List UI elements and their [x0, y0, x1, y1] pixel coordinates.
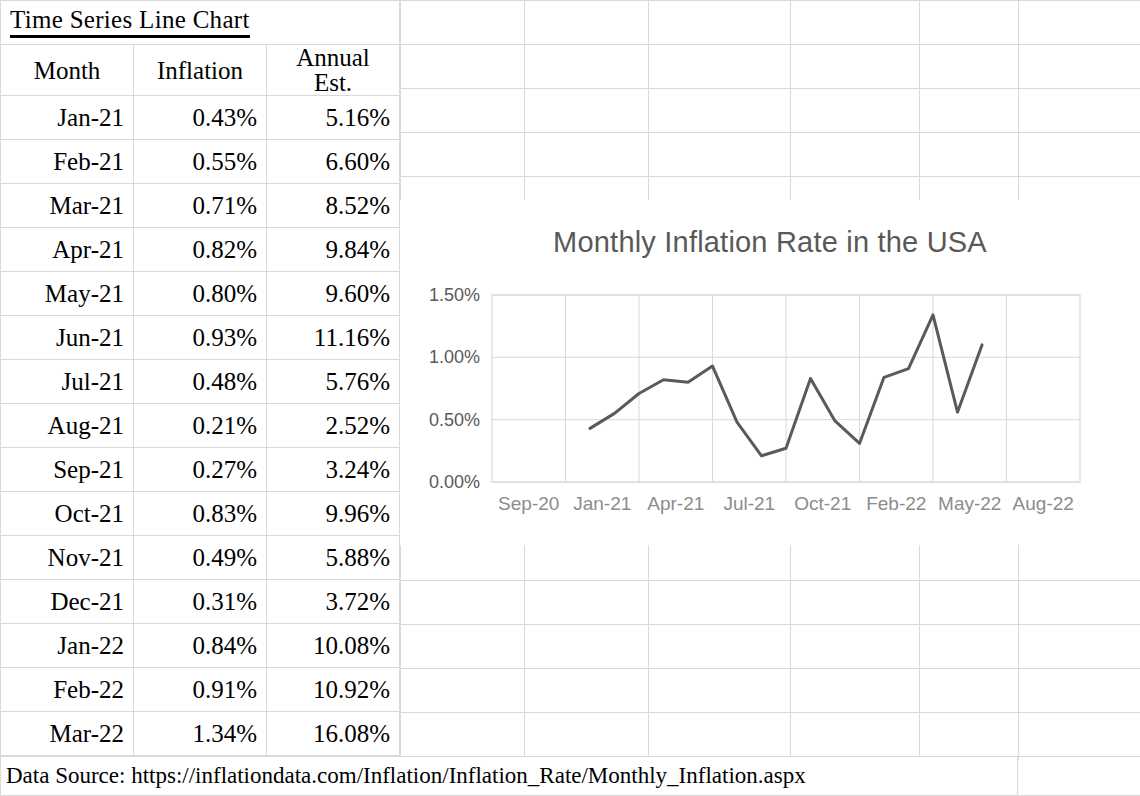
data-source-row[interactable]: Data Source: https://inflationdata.com/I…: [0, 756, 1018, 796]
sheet-title-cell: Time Series Line Chart: [1, 1, 400, 45]
cell-month[interactable]: Apr-21: [1, 228, 134, 272]
cell-inflation[interactable]: 0.91%: [134, 668, 267, 712]
x-axis-tick-labels: Sep-20Jan-21Apr-21Jul-21Oct-21Feb-22May-…: [498, 493, 1074, 514]
cell-inflation[interactable]: 0.71%: [134, 184, 267, 228]
data-source-text: Data Source: https://inflationdata.com/I…: [1, 763, 806, 789]
y-axis-tick-label: 1.00%: [429, 347, 480, 367]
cell-month[interactable]: Jul-21: [1, 360, 134, 404]
cell-annual[interactable]: 9.60%: [267, 272, 400, 316]
inflation-data-table: Time Series Line Chart Month Inflation A…: [0, 0, 400, 796]
cell-annual[interactable]: 10.92%: [267, 668, 400, 712]
cell-month[interactable]: Sep-21: [1, 448, 134, 492]
table-body: Time Series Line Chart Month Inflation A…: [1, 1, 400, 796]
cell-annual[interactable]: 11.16%: [267, 316, 400, 360]
table-row[interactable]: Oct-21 0.83% 9.96%: [1, 492, 400, 536]
cell-month[interactable]: Jan-21: [1, 96, 134, 140]
column-header-inflation[interactable]: Inflation: [134, 45, 267, 96]
table-row[interactable]: Aug-21 0.21% 2.52%: [1, 404, 400, 448]
x-axis-tick-label: Apr-21: [647, 493, 704, 514]
cell-inflation[interactable]: 0.48%: [134, 360, 267, 404]
cell-month[interactable]: Jun-21: [1, 316, 134, 360]
cell-inflation[interactable]: 1.34%: [134, 712, 267, 756]
cell-annual[interactable]: 3.72%: [267, 580, 400, 624]
spreadsheet-page: Time Series Line Chart Month Inflation A…: [0, 0, 1140, 796]
cell-annual[interactable]: 5.16%: [267, 96, 400, 140]
y-axis-tick-label: 0.00%: [429, 472, 480, 492]
cell-annual[interactable]: 5.76%: [267, 360, 400, 404]
cell-inflation[interactable]: 0.93%: [134, 316, 267, 360]
cell-inflation[interactable]: 0.84%: [134, 624, 267, 668]
cell-inflation[interactable]: 0.31%: [134, 580, 267, 624]
x-axis-tick-label: May-22: [938, 493, 1001, 514]
table-row[interactable]: Apr-21 0.82% 9.84%: [1, 228, 400, 272]
table-row[interactable]: Mar-22 1.34% 16.08%: [1, 712, 400, 756]
cell-month[interactable]: Feb-22: [1, 668, 134, 712]
table-row[interactable]: Nov-21 0.49% 5.88%: [1, 536, 400, 580]
cell-month[interactable]: Feb-21: [1, 140, 134, 184]
cell-annual[interactable]: 8.52%: [267, 184, 400, 228]
cell-annual[interactable]: 5.88%: [267, 536, 400, 580]
cell-annual[interactable]: 9.96%: [267, 492, 400, 536]
cell-inflation[interactable]: 0.80%: [134, 272, 267, 316]
table-header-row: Month Inflation Annual Est.: [1, 45, 400, 96]
table-row[interactable]: Jul-21 0.48% 5.76%: [1, 360, 400, 404]
chart-canvas: 0.00%0.50%1.00%1.50% Sep-20Jan-21Apr-21J…: [400, 200, 1140, 545]
x-axis-tick-label: Oct-21: [794, 493, 851, 514]
cell-annual[interactable]: 3.24%: [267, 448, 400, 492]
cell-month[interactable]: Aug-21: [1, 404, 134, 448]
sheet-title: Time Series Line Chart: [10, 7, 250, 38]
cell-month[interactable]: Nov-21: [1, 536, 134, 580]
cell-inflation[interactable]: 0.55%: [134, 140, 267, 184]
cell-annual[interactable]: 9.84%: [267, 228, 400, 272]
table-row[interactable]: Dec-21 0.31% 3.72%: [1, 580, 400, 624]
cell-month[interactable]: Mar-21: [1, 184, 134, 228]
cell-annual[interactable]: 6.60%: [267, 140, 400, 184]
cell-month[interactable]: Oct-21: [1, 492, 134, 536]
cell-month[interactable]: Mar-22: [1, 712, 134, 756]
table-row[interactable]: May-21 0.80% 9.60%: [1, 272, 400, 316]
y-axis-tick-label: 1.50%: [429, 285, 480, 305]
cell-month[interactable]: Jan-22: [1, 624, 134, 668]
y-axis-tick-label: 0.50%: [429, 410, 480, 430]
x-axis-tick-label: Jul-21: [723, 493, 775, 514]
inflation-line-chart[interactable]: Monthly Inflation Rate in the USA 0.00%0…: [400, 200, 1140, 545]
column-header-annual-est[interactable]: Annual Est.: [267, 45, 400, 96]
x-axis-tick-label: Sep-20: [498, 493, 559, 514]
cell-inflation[interactable]: 0.43%: [134, 96, 267, 140]
x-axis-tick-label: Feb-22: [866, 493, 926, 514]
cell-inflation[interactable]: 0.27%: [134, 448, 267, 492]
cell-annual[interactable]: 10.08%: [267, 624, 400, 668]
table-row[interactable]: Mar-21 0.71% 8.52%: [1, 184, 400, 228]
table-row[interactable]: Jan-22 0.84% 10.08%: [1, 624, 400, 668]
chart-gridlines: [492, 295, 1080, 482]
cell-month[interactable]: Dec-21: [1, 580, 134, 624]
table-row[interactable]: Sep-21 0.27% 3.24%: [1, 448, 400, 492]
cell-inflation[interactable]: 0.21%: [134, 404, 267, 448]
table-row[interactable]: Jun-21 0.93% 11.16%: [1, 316, 400, 360]
table-row[interactable]: Feb-22 0.91% 10.92%: [1, 668, 400, 712]
cell-annual[interactable]: 16.08%: [267, 712, 400, 756]
x-axis-tick-label: Aug-22: [1013, 493, 1074, 514]
table-row[interactable]: Feb-21 0.55% 6.60%: [1, 140, 400, 184]
table-row[interactable]: Jan-21 0.43% 5.16%: [1, 96, 400, 140]
cell-inflation[interactable]: 0.49%: [134, 536, 267, 580]
cell-annual[interactable]: 2.52%: [267, 404, 400, 448]
cell-inflation[interactable]: 0.83%: [134, 492, 267, 536]
y-axis-tick-labels: 0.00%0.50%1.00%1.50%: [429, 285, 480, 492]
table-title-row: Time Series Line Chart: [1, 1, 400, 45]
x-axis-tick-label: Jan-21: [573, 493, 631, 514]
cell-month[interactable]: May-21: [1, 272, 134, 316]
cell-inflation[interactable]: 0.82%: [134, 228, 267, 272]
column-header-month[interactable]: Month: [1, 45, 134, 96]
